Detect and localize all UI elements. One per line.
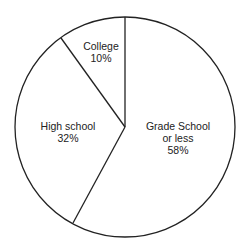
slice-label-high-school: High school 32% — [36, 120, 100, 144]
slice-label-college-pct: 10% — [74, 52, 128, 64]
slice-label-grade-school-name-2: or less — [138, 132, 218, 144]
slice-label-college-name: College — [74, 40, 128, 52]
slice-label-grade-school-pct: 58% — [138, 144, 218, 156]
slice-label-grade-school: Grade School or less 58% — [138, 120, 218, 156]
slice-label-high-school-name: High school — [36, 120, 100, 132]
slice-label-college: College 10% — [74, 40, 128, 64]
slice-label-grade-school-name: Grade School — [138, 120, 218, 132]
slice-label-high-school-pct: 32% — [36, 132, 100, 144]
